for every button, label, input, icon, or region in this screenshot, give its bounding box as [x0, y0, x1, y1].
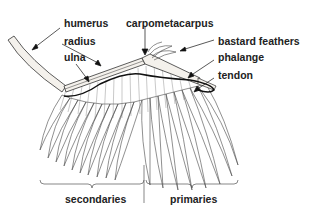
- primary-feathers: [142, 84, 238, 190]
- label-bastard-feathers: bastard feathers: [218, 35, 300, 47]
- label-humerus: humerus: [64, 17, 108, 29]
- label-phalange: phalange: [218, 51, 264, 63]
- label-tendon: tendon: [218, 69, 253, 81]
- label-radius: radius: [64, 35, 96, 47]
- label-carpometacarpus: carpometacarpus: [126, 17, 214, 29]
- wing-illustration: [0, 0, 317, 217]
- label-secondaries: secondaries: [65, 193, 126, 205]
- wing-diagram: humerus radius ulna carpometacarpus bast…: [0, 0, 317, 217]
- label-primaries: primaries: [170, 193, 217, 205]
- humerus-bone: [8, 36, 66, 92]
- label-ulna: ulna: [64, 51, 86, 63]
- secondaries-brace: [40, 180, 144, 188]
- secondary-feathers: [40, 95, 142, 180]
- primaries-brace: [146, 180, 238, 188]
